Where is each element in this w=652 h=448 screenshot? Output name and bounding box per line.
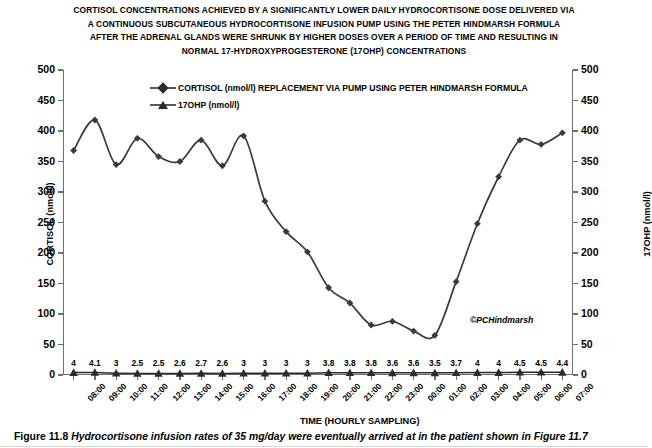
figure-caption-number: Figure 11.8 (14, 431, 68, 442)
cortisol-data-point (389, 318, 396, 325)
x-axis-tick-label: 13:00 (191, 381, 213, 403)
legend-label-cortisol: CORTISOL (nmol/l) REPLACEMENT VIA PUMP U… (178, 83, 528, 93)
figure-caption: Figure 11.8 Hydrocortisone infusion rate… (14, 431, 644, 442)
x-axis-tick-label: 20:00 (340, 381, 362, 403)
y-axis-tick-label: 150 (37, 277, 55, 289)
y2-axis-title: 17OHP (nmol/l) (642, 191, 652, 257)
y-axis-tick-label: 450 (37, 94, 55, 106)
x-axis-tick (519, 375, 520, 380)
x-axis-tick-label: 07:00 (574, 381, 596, 403)
legend-item-17ohp: 17OHP (nmol/l) (150, 96, 528, 113)
y2-axis-tick-label: 0 (581, 368, 587, 380)
y-axis-tick-label: 350 (37, 155, 55, 167)
y2-axis-tick-label: 350 (581, 155, 599, 167)
x-axis-tick-label: 08:00 (85, 381, 107, 403)
y-axis-tick-label: 200 (37, 246, 55, 258)
x-axis-tick-label: 14:00 (212, 381, 234, 403)
y2-axis-tick-label: 500 (581, 63, 599, 75)
x-axis-tick-label: 12:00 (170, 381, 192, 403)
y-axis-tick-label: 300 (37, 185, 55, 197)
y-axis-tick-label: 500 (37, 63, 55, 75)
y2-axis-tick-label: 50 (581, 338, 593, 350)
x-axis-tick-label: 17:00 (276, 381, 298, 403)
x-axis-tick-label: 15:00 (234, 381, 256, 403)
y2-axis-tick-label: 250 (581, 216, 599, 228)
x-axis-tick-label: 19:00 (319, 381, 341, 403)
x-axis-title: TIME (HOURLY SAMPLING) (300, 416, 419, 426)
x-axis-tick-label: 00:00 (425, 381, 447, 403)
x-axis-tick-label: 10:00 (127, 381, 149, 403)
chart-legend: CORTISOL (nmol/l) REPLACEMENT VIA PUMP U… (150, 79, 528, 113)
diamond-marker-icon (150, 83, 176, 93)
data-label-17ohp: 4.4 (550, 358, 574, 368)
cortisol-data-point (474, 220, 481, 227)
y2-axis-tick-label: 450 (581, 94, 599, 106)
x-axis-tick-label: 06:00 (552, 381, 574, 403)
x-axis-tick-label: 09:00 (106, 381, 128, 403)
cortisol-data-point (410, 328, 417, 335)
y2-axis-tick-label: 100 (581, 307, 599, 319)
y-axis-tick-label: 100 (37, 307, 55, 319)
y2-axis-tick-label: 200 (581, 246, 599, 258)
title-line-1: CORTISOL CONCENTRATIONS ACHIEVED BY A SI… (18, 4, 630, 18)
x-axis-tick-label: 03:00 (489, 381, 511, 403)
x-axis-tick-label: 21:00 (361, 381, 383, 403)
y2-axis-tick (573, 283, 578, 284)
x-axis-tick (562, 375, 563, 380)
y2-axis-tick (573, 374, 578, 375)
x-axis-tick-label: 05:00 (531, 381, 553, 403)
y2-axis-tick (573, 313, 578, 314)
title-line-3: AFTER THE ADRENAL GLANDS WERE SHRUNK BY … (18, 31, 630, 45)
y-axis-tick-label: 250 (37, 216, 55, 228)
title-line-2: A CONTINUOUS SUBCUTANEOUS HYDROCORTISONE… (18, 18, 630, 32)
x-axis-tick-label: 16:00 (255, 381, 277, 403)
triangle-marker-icon (150, 100, 176, 110)
ohp-line (74, 372, 563, 373)
y-axis-tick-label: 50 (43, 338, 55, 350)
y2-axis-tick-label: 150 (581, 277, 599, 289)
cortisol-data-point (538, 141, 545, 148)
legend-label-17ohp: 17OHP (nmol/l) (178, 100, 239, 110)
series-layer (63, 70, 573, 375)
x-axis-tick-label: 18:00 (297, 381, 319, 403)
y2-axis-tick (573, 161, 578, 162)
y2-axis-tick (573, 130, 578, 131)
chart-title: CORTISOL CONCENTRATIONS ACHIEVED BY A SI… (18, 4, 630, 58)
cortisol-data-point (70, 147, 77, 154)
x-axis-tick-label: 04:00 (510, 381, 532, 403)
x-axis-tick-label: 22:00 (382, 381, 404, 403)
legend-item-cortisol: CORTISOL (nmol/l) REPLACEMENT VIA PUMP U… (150, 79, 528, 96)
cortisol-line (74, 120, 563, 339)
cortisol-data-point (495, 173, 502, 180)
y2-axis-tick (573, 191, 578, 192)
y2-axis-tick (573, 100, 578, 101)
footer-rule (0, 446, 648, 447)
y2-axis-tick-label: 400 (581, 124, 599, 136)
x-axis-tick (541, 375, 542, 380)
y2-axis-tick (573, 69, 578, 70)
title-line-4: NORMAL 17-HYDROXYPROGESTERONE (17OHP) CO… (18, 45, 630, 59)
cortisol-data-point (453, 278, 460, 285)
x-axis-tick-label: 23:00 (404, 381, 426, 403)
x-axis-tick-label: 01:00 (446, 381, 468, 403)
y2-axis-tick (573, 344, 578, 345)
y-axis-tick-label: 400 (37, 124, 55, 136)
y2-axis-tick (573, 252, 578, 253)
y2-axis-tick (573, 222, 578, 223)
y2-axis-tick-label: 300 (581, 185, 599, 197)
y-axis-tick-label: 0 (49, 368, 55, 380)
cortisol-data-point (261, 198, 268, 205)
figure-caption-text: Hydrocortisone infusion rates of 35 mg/d… (71, 431, 588, 442)
x-axis-tick-label: 11:00 (149, 381, 171, 403)
x-axis-tick-label: 02:00 (467, 381, 489, 403)
copyright-notice: ©PCHindmarsh (470, 315, 533, 325)
